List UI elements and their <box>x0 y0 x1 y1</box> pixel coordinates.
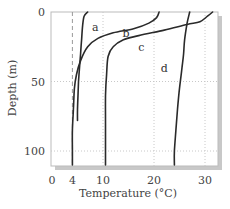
plot-area <box>51 12 218 166</box>
shadow-bottom <box>55 166 222 170</box>
x-tick-label: 4 <box>69 174 76 187</box>
depth-temperature-chart: abcd 050100 04102030 Depth (m) Temperatu… <box>0 0 230 209</box>
y-tick-label: 0 <box>38 6 45 19</box>
x-tick-label: 20 <box>147 174 161 187</box>
y-tick-label: 100 <box>24 145 45 158</box>
x-axis-ticks: 04102030 <box>49 174 213 187</box>
curve-label-c: c <box>138 41 144 54</box>
y-tick-label: 50 <box>31 76 45 89</box>
x-tick-label: 0 <box>49 174 56 187</box>
shadow-right <box>218 16 222 170</box>
x-tick-label: 30 <box>198 174 212 187</box>
x-tick-label: 10 <box>96 174 110 187</box>
x-axis-title: Temperature (°C) <box>79 187 177 200</box>
curve-label-a: a <box>92 21 99 34</box>
plot-frame <box>51 12 218 166</box>
y-axis-title: Depth (m) <box>6 60 19 116</box>
curve-label-d: d <box>161 62 168 75</box>
y-axis-ticks: 050100 <box>24 6 45 158</box>
curve-label-b: b <box>122 27 129 40</box>
